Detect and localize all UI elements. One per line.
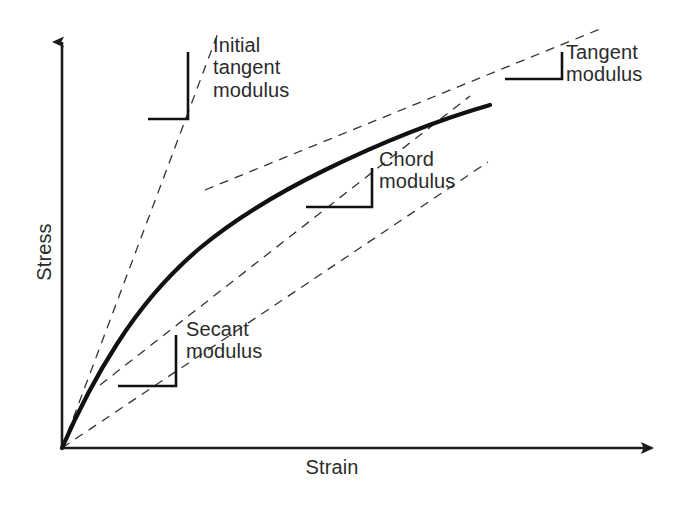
label-initial-tangent-modulus: Initial tangent modulus [213,34,289,101]
initial-tangent-triangle [148,52,188,119]
secant-triangle [118,335,176,386]
y-axis-label: Stress [33,223,55,280]
label-secant-modulus: Secant modulus [186,318,262,363]
secant-line [62,162,488,448]
x-axis-label: Strain [306,456,359,478]
slope-triangles [118,52,562,386]
label-chord-modulus: Chord modulus [379,148,455,193]
label-tangent-modulus: Tangent modulus [566,41,642,86]
figure-canvas: Initial tangent modulus Tangent modulus … [0,0,693,506]
chord-line [100,96,470,385]
